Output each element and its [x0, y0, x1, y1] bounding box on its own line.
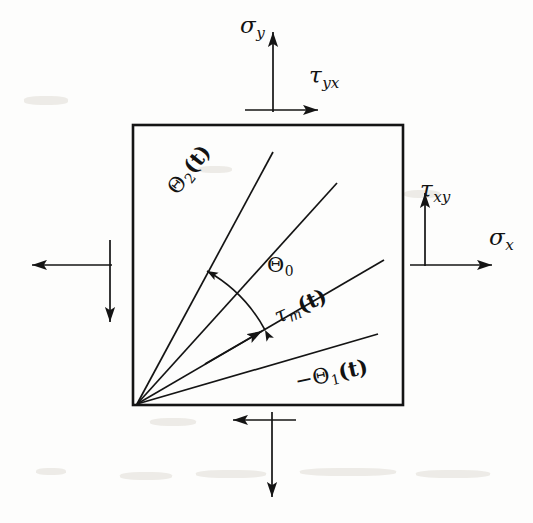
sigma-y-subscript: y: [256, 24, 265, 42]
theta-0-arc: [207, 271, 265, 330]
figure-canvas: σy τyx τxy σx Θ0 Θ2(t) τm(t) −Θ1(t): [0, 0, 533, 523]
tau-yx-subscript: yx: [322, 74, 339, 92]
tau-xy-symbol: τ: [420, 176, 433, 202]
sigma-y-symbol: σ: [240, 12, 256, 38]
tau-yx-symbol: τ: [309, 62, 322, 88]
theta-1-symbol: Θ: [310, 363, 332, 390]
tau-xy-subscript: xy: [433, 188, 450, 206]
tau-xy-label: τxy: [420, 178, 450, 205]
theta-0-symbol: Θ: [267, 253, 284, 277]
theta-2-ray: [137, 152, 273, 404]
sigma-x-symbol: σ: [489, 224, 505, 250]
theta-0-subscript: 0: [285, 263, 294, 279]
sigma-x-subscript: x: [505, 236, 514, 254]
theta-1-suffix: (t): [336, 354, 370, 385]
tau-yx-label: τyx: [309, 64, 339, 91]
tau-m-ray-arrowhead: [205, 331, 262, 364]
theta-0-label: Θ0: [267, 255, 294, 279]
sigma-y-label: σy: [240, 14, 265, 41]
sigma-x-label: σx: [489, 226, 514, 253]
